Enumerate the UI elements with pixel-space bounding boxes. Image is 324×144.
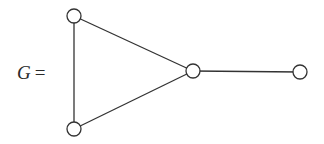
- node-v3: [186, 64, 200, 78]
- node-v2: [67, 122, 81, 136]
- edge-v1-v3: [74, 16, 193, 71]
- graph-variable: G: [17, 62, 31, 83]
- nodes: [67, 9, 307, 136]
- node-v4: [293, 65, 307, 79]
- equals-sign: =: [35, 62, 46, 83]
- edge-v2-v3: [74, 71, 193, 129]
- graph-label: G=: [17, 62, 45, 83]
- graph-diagram: G=: [0, 0, 324, 144]
- edge-v3-v4: [193, 71, 300, 72]
- node-v1: [67, 9, 81, 23]
